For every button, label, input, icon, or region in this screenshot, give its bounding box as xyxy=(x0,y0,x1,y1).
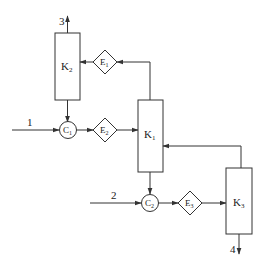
stream-1-label: 1 xyxy=(27,116,33,128)
stream-2-label: 2 xyxy=(111,189,117,201)
process-flow-diagram: K2 K1 K3 E1 E2 E3 C1 C2 1 2 3 4 xyxy=(0,0,256,268)
k1-to-e1-line xyxy=(117,62,150,100)
k3-to-k1-line xyxy=(163,146,241,168)
stream-3-label: 3 xyxy=(59,15,65,27)
stream-4-label: 4 xyxy=(230,243,236,255)
